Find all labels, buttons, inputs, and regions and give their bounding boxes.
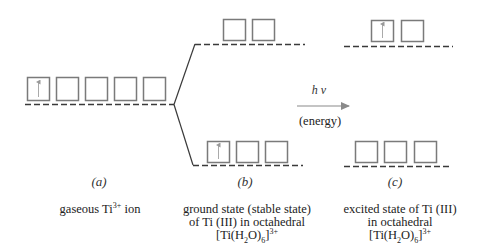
orbital-box	[402, 21, 424, 42]
split-line-lower	[174, 105, 193, 166]
orbital-box	[224, 20, 246, 41]
orbital-set-b-eg	[195, 20, 305, 45]
orbital-box	[356, 142, 378, 163]
arrow-label-hv: h ν	[299, 83, 339, 98]
panel-label-c: (c)	[375, 174, 415, 190]
orbital-box	[57, 78, 79, 101]
orbital-set-c-t2g	[344, 142, 452, 167]
caption-a-charge: 3+	[113, 201, 122, 210]
orbital-box	[385, 142, 407, 163]
caption-b-line2: of Ti (III) in octahedral	[167, 216, 327, 229]
formula-sup: 3+	[422, 227, 431, 236]
orbital-set-c-eg	[344, 21, 453, 47]
formula-sup: 3+	[269, 227, 278, 236]
panel-label-a: (a)	[79, 174, 119, 190]
orbital-box	[115, 78, 137, 101]
caption-a: gaseous Ti3+ ion	[40, 203, 160, 216]
caption-c-formula: [Ti(H2O)6]3+	[325, 229, 475, 242]
formula-part: O)	[248, 228, 261, 242]
caption-b: ground state (stable state) of Ti (III) …	[167, 203, 327, 242]
orbital-box	[237, 142, 259, 163]
orbital-set-b-t2g	[193, 142, 303, 166]
formula-part: [Ti(H	[369, 228, 397, 242]
caption-b-formula: [Ti(H2O)6]3+	[167, 229, 327, 242]
formula-part: O)	[401, 228, 414, 242]
orbital-set-a-degenerate	[25, 78, 174, 105]
orbital-box	[144, 78, 166, 101]
caption-a-suffix: ion	[121, 202, 140, 216]
orbital-box	[253, 20, 275, 41]
caption-c-line2: in octahedral	[325, 216, 475, 229]
caption-a-prefix: gaseous Ti	[60, 202, 113, 216]
split-line-upper	[174, 44, 195, 105]
orbital-box	[266, 142, 288, 163]
orbital-box	[86, 78, 108, 101]
formula-part: [Ti(H	[216, 228, 244, 242]
orbital-box	[415, 142, 437, 163]
arrow-label-energy: (energy)	[290, 115, 350, 128]
caption-c: excited state of Ti (III) in octahedral …	[325, 203, 475, 242]
panel-label-b: (b)	[225, 174, 265, 190]
